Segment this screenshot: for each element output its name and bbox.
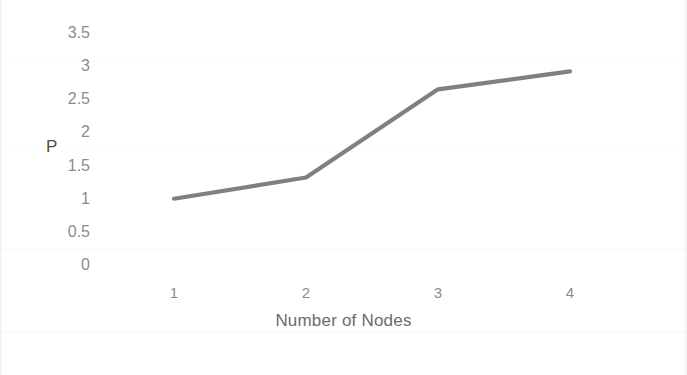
x-axis-title: Number of Nodes [0, 311, 687, 331]
x-tick-label: 4 [550, 285, 590, 300]
x-tick-label: 3 [418, 285, 458, 300]
series-line-p [174, 71, 570, 198]
line-chart-figure: 3.532.521.510.50 P 1234 Number of Nodes [0, 0, 687, 375]
x-tick-label: 1 [154, 285, 194, 300]
x-tick-label: 2 [286, 285, 326, 300]
x-axis-tick-labels: 1234 [0, 285, 687, 309]
